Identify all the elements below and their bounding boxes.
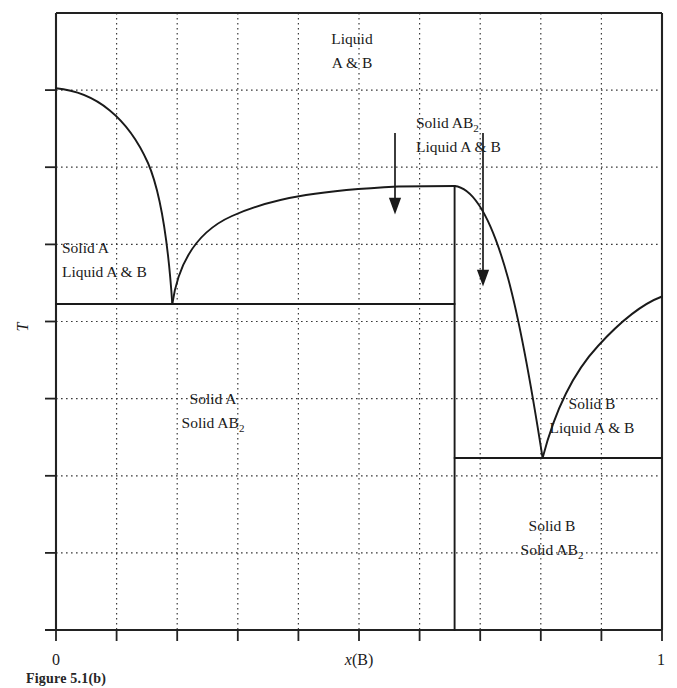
region-label-line2: Liquid A & B xyxy=(416,138,501,155)
region-label-line1: Liquid xyxy=(331,30,373,47)
region-label-line2-text: Solid AB xyxy=(521,541,578,558)
region-label-line2: Liquid A & B xyxy=(62,263,147,280)
region-label-line1: Solid A xyxy=(190,390,238,407)
region-label-line2-subscript: 2 xyxy=(578,549,584,561)
region-label-line2-text: Solid AB xyxy=(182,414,239,431)
region-label-line1: Solid B xyxy=(529,517,576,534)
region-label-line2: A & B xyxy=(332,54,372,71)
x-axis-min-label: 0 xyxy=(52,651,60,668)
y-axis-title: T xyxy=(14,321,31,331)
figure-caption: Figure 5.1(b) xyxy=(26,671,106,688)
region-label-line1: Solid B xyxy=(569,395,616,412)
x-axis-max-label: 1 xyxy=(657,651,665,668)
region-label-line1-text: Solid AB xyxy=(416,114,473,131)
region-label-line2: Liquid A & B xyxy=(550,419,635,436)
region-label-line2-subscript: 2 xyxy=(239,422,245,434)
region-label-line1: Solid A xyxy=(62,239,110,256)
x-axis-title: x(B) xyxy=(344,651,373,669)
region-label-line1-subscript: 2 xyxy=(473,122,479,134)
phase-diagram-svg: Liquid A & B Solid AB2 Liquid A & B Soli… xyxy=(0,0,677,688)
phase-diagram-figure: Liquid A & B Solid AB2 Liquid A & B Soli… xyxy=(0,0,677,688)
